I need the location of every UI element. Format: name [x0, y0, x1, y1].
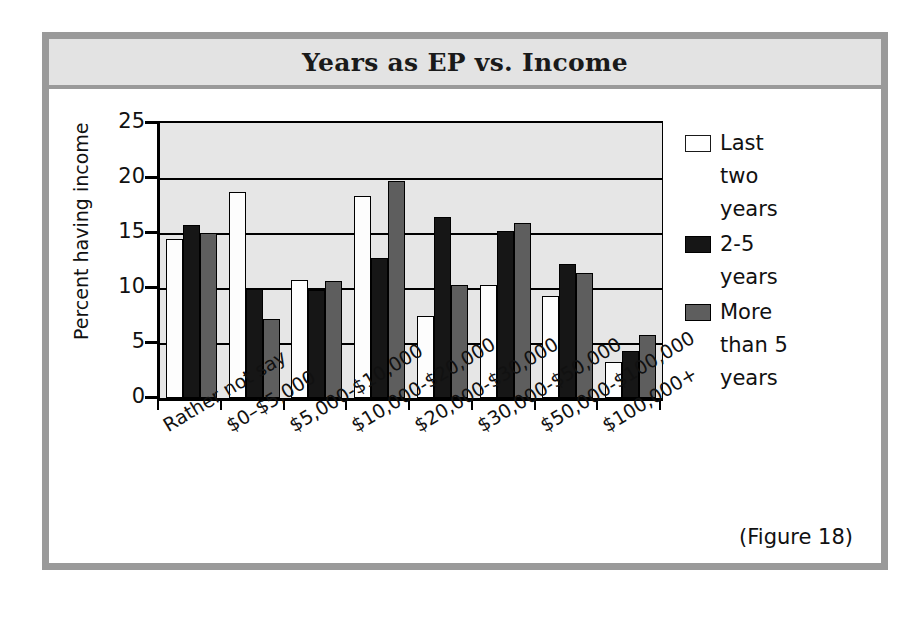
legend-label-continuation: years [720, 261, 870, 294]
bar [451, 285, 468, 398]
legend-label: Last [720, 127, 764, 160]
legend-label: More [720, 296, 772, 329]
figure-caption: (Figure 18) [739, 525, 853, 549]
black-square-swatch [685, 236, 711, 253]
legend-label-continuation: years [720, 193, 870, 226]
chart-title: Years as EP vs. Income [302, 48, 628, 77]
y-axis-tick-mark [145, 176, 157, 179]
x-axis-tick-labels: Rather not say$0–$5,000$5,000-$10,000$10… [157, 411, 717, 541]
y-axis-tick-mark [145, 341, 157, 344]
legend-entry: 2-5years [685, 228, 870, 294]
legend-label-continuation: years [720, 362, 870, 395]
bar [576, 273, 593, 398]
legend-label-continuation: than 5 [720, 329, 870, 362]
legend-label: 2-5 [720, 228, 754, 261]
y-axis-tick-label: 25 [105, 109, 145, 133]
y-axis-tick-label: 15 [105, 219, 145, 243]
gray-square-swatch [685, 304, 711, 321]
x-axis-tick-mark [157, 399, 159, 410]
y-axis-tick-mark [145, 121, 157, 124]
figure-frame: Years as EP vs. Income Percent having in… [42, 32, 888, 570]
legend-entry: Morethan 5years [685, 296, 870, 395]
y-axis-tick-mark [145, 231, 157, 234]
bar [200, 233, 217, 398]
chart-title-band: Years as EP vs. Income [49, 39, 881, 89]
y-axis-tick-label: 5 [105, 329, 145, 353]
y-axis-tick-label: 20 [105, 164, 145, 188]
bar-group [160, 123, 223, 398]
bar-group [286, 123, 349, 398]
chart-area: Percent having income 0510152025 Rather … [49, 89, 881, 563]
chart-legend: Lasttwoyears2-5yearsMorethan 5years [685, 127, 870, 397]
y-axis-tick-mark [145, 396, 157, 399]
bar [325, 281, 342, 398]
legend-label-continuation: two [720, 160, 870, 193]
bar [183, 225, 200, 398]
y-axis-title: Percent having income [70, 160, 92, 340]
legend-entry: Lasttwoyears [685, 127, 870, 226]
y-axis-tick-labels: 0510152025 [97, 121, 145, 396]
y-axis-tick-label: 0 [105, 384, 145, 408]
bar [166, 239, 183, 399]
y-axis-tick-mark [145, 286, 157, 289]
y-axis-tick-label: 10 [105, 274, 145, 298]
white-square-swatch [685, 135, 711, 152]
